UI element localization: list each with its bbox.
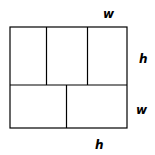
label-right-h: h <box>139 52 148 66</box>
partition-diagram: w h w h <box>0 0 155 155</box>
label-top-w: w <box>103 7 115 21</box>
label-bottom-h: h <box>95 138 104 152</box>
label-right-w: w <box>136 103 148 117</box>
outer-rectangle <box>10 27 127 128</box>
